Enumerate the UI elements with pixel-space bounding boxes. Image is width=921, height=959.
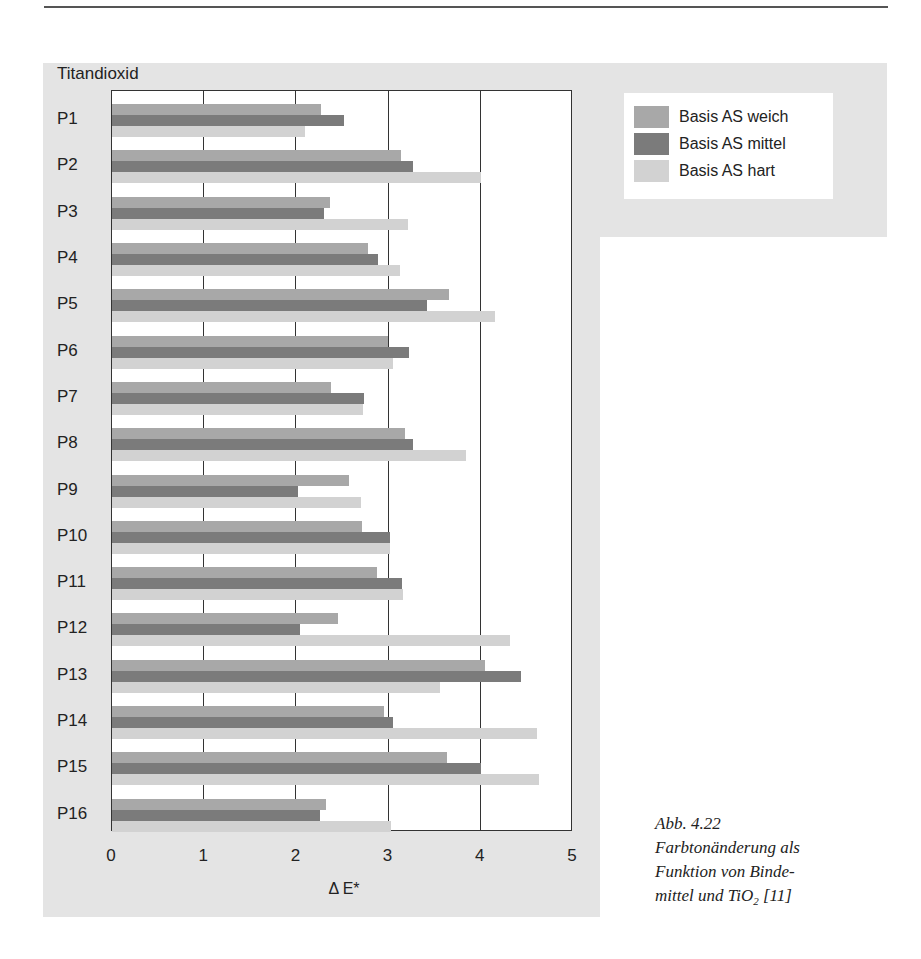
bar-p15-mittel: [112, 763, 481, 774]
category-label: P1: [57, 109, 78, 129]
legend-swatch-icon: [634, 160, 669, 182]
bar-p12-hart: [112, 635, 510, 646]
legend-swatch-icon: [634, 106, 669, 128]
bar-p3-mittel: [112, 208, 324, 219]
bar-p5-mittel: [112, 300, 427, 311]
x-axis-title: Δ E*: [328, 880, 359, 898]
page-header-rule: [44, 6, 888, 8]
bar-p13-mittel: [112, 671, 521, 682]
category-label: P15: [57, 757, 87, 777]
bar-p16-hart: [112, 821, 391, 832]
bar-p2-hart: [112, 172, 481, 183]
bar-p10-mittel: [112, 532, 390, 543]
bar-p8-weich: [112, 428, 405, 439]
plot-area: [111, 90, 572, 831]
bar-p1-hart: [112, 126, 305, 137]
bar-p2-mittel: [112, 161, 413, 172]
bar-p12-mittel: [112, 624, 300, 635]
bar-p11-hart: [112, 589, 403, 600]
bar-p4-weich: [112, 243, 368, 254]
bar-p3-weich: [112, 197, 330, 208]
category-label: P4: [57, 248, 78, 268]
bar-p2-weich: [112, 150, 401, 161]
bar-p5-weich: [112, 289, 449, 300]
chart-title: Titandioxid: [57, 64, 139, 84]
x-tick-label: 3: [383, 846, 392, 866]
x-tick-label: 2: [291, 846, 300, 866]
category-label: P6: [57, 341, 78, 361]
caption-line: Farbtonänderung als: [655, 836, 800, 860]
x-tick-label: 0: [106, 846, 115, 866]
category-label: P13: [57, 665, 87, 685]
bar-p6-weich: [112, 336, 388, 347]
bar-p9-mittel: [112, 486, 298, 497]
x-tick-label: 4: [475, 846, 484, 866]
bar-p9-hart: [112, 497, 361, 508]
category-label: P14: [57, 711, 87, 731]
category-label: P16: [57, 804, 87, 824]
category-label: P8: [57, 433, 78, 453]
x-tick-label: 1: [198, 846, 207, 866]
bar-p7-weich: [112, 382, 331, 393]
bar-p14-weich: [112, 706, 384, 717]
bar-p3-hart: [112, 219, 408, 230]
bar-p4-mittel: [112, 254, 378, 265]
bar-p11-weich: [112, 567, 377, 578]
bar-p1-mittel: [112, 115, 344, 126]
legend: Basis AS weichBasis AS mittelBasis AS ha…: [624, 93, 833, 199]
x-tick-label: 5: [567, 846, 576, 866]
caption-line: mittel und TiO2 [11]: [655, 884, 800, 913]
figure-caption: Abb. 4.22 Farbtonänderung als Funktion v…: [655, 812, 800, 913]
category-label: P9: [57, 480, 78, 500]
bar-p15-hart: [112, 774, 539, 785]
bar-p7-mittel: [112, 393, 364, 404]
bar-p9-weich: [112, 475, 349, 486]
caption-number: Abb. 4.22: [655, 812, 800, 836]
bar-p14-mittel: [112, 717, 393, 728]
bar-p1-weich: [112, 104, 321, 115]
bar-p4-hart: [112, 265, 400, 276]
bar-p5-hart: [112, 311, 495, 322]
legend-item: Basis AS weich: [634, 105, 788, 129]
bar-p16-mittel: [112, 810, 320, 821]
bar-p10-hart: [112, 543, 390, 554]
bar-p10-weich: [112, 521, 362, 532]
legend-label: Basis AS weich: [679, 108, 788, 126]
category-label: P3: [57, 202, 78, 222]
bar-p6-mittel: [112, 347, 409, 358]
legend-item: Basis AS mittel: [634, 132, 786, 156]
bar-p7-hart: [112, 404, 363, 415]
legend-label: Basis AS hart: [679, 162, 775, 180]
category-label: P7: [57, 387, 78, 407]
bar-p8-hart: [112, 450, 466, 461]
bar-p13-weich: [112, 660, 485, 671]
bar-p11-mittel: [112, 578, 402, 589]
legend-swatch-icon: [634, 133, 669, 155]
gridline: [480, 91, 481, 830]
bar-p12-weich: [112, 613, 338, 624]
category-label: P11: [57, 572, 86, 592]
category-label: P12: [57, 618, 87, 638]
category-label: P2: [57, 155, 78, 175]
legend-label: Basis AS mittel: [679, 135, 786, 153]
bar-p14-hart: [112, 728, 537, 739]
caption-line: Funktion von Binde-: [655, 860, 800, 884]
legend-item: Basis AS hart: [634, 159, 775, 183]
category-label: P5: [57, 294, 78, 314]
bar-p16-weich: [112, 799, 326, 810]
bar-p8-mittel: [112, 439, 413, 450]
category-label: P10: [57, 526, 87, 546]
bar-p15-weich: [112, 752, 447, 763]
bar-p6-hart: [112, 358, 393, 369]
bar-p13-hart: [112, 682, 440, 693]
